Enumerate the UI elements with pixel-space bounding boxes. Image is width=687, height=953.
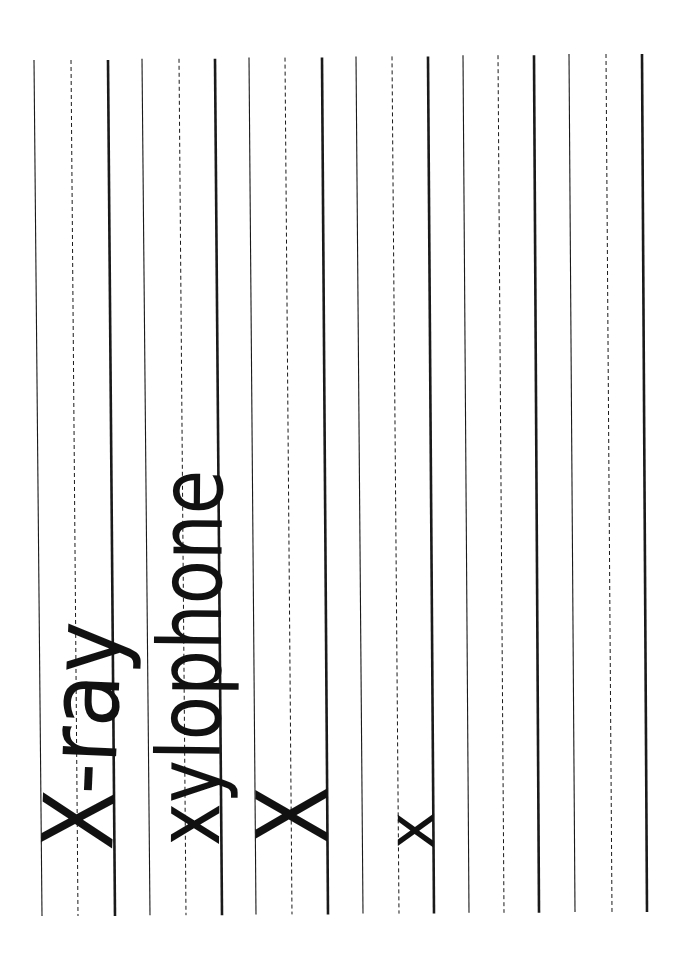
midline-dashed [285, 58, 292, 915]
midline-dashed [498, 55, 504, 913]
midline-dashed [392, 56, 399, 913]
base-line [642, 54, 647, 912]
base-line [534, 55, 539, 913]
word-capital-x: X [236, 786, 350, 844]
top-line [356, 56, 363, 913]
handwriting-worksheet: X-ray xylophone X x [0, 0, 687, 953]
base-line [428, 56, 434, 913]
word-x-ray: X-ray [21, 619, 145, 852]
top-line [463, 55, 469, 913]
top-line [249, 58, 256, 915]
word-lowercase-x: x [374, 812, 448, 849]
midline-dashed [606, 54, 612, 912]
base-line [322, 58, 328, 915]
word-xylophone: xylophone [137, 469, 243, 846]
top-line [569, 54, 575, 912]
